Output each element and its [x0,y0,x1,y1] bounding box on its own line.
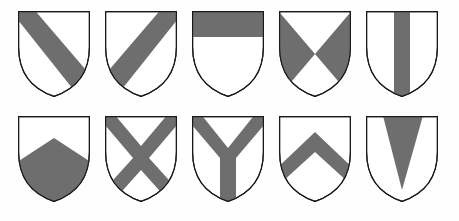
shield-chief [191,10,265,98]
shield-grid [0,0,459,221]
shield-saltire [104,115,178,203]
shield-point-pointed [17,115,91,203]
shield-pile [365,115,439,203]
shield-bend [17,10,91,98]
shield-bend-sinister [104,10,178,98]
shield-pale [365,10,439,98]
shield-chevron [278,115,352,203]
charge-pale [394,7,410,103]
shield-per-saltire [278,10,352,98]
shield-pall [191,115,265,203]
